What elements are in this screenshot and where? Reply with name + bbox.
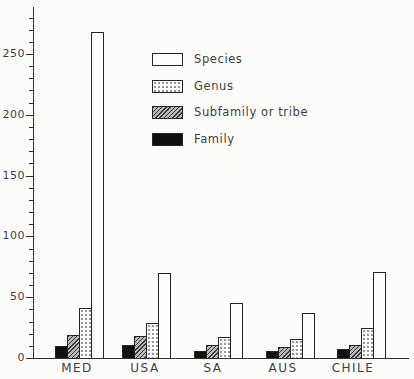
y-tick-240 [29,66,33,67]
legend-label-genus: Genus [194,79,234,94]
y-tick-40 [29,309,33,310]
x-label-chile: CHILE [321,361,385,375]
y-tick-250 [26,54,33,55]
y-axis [33,7,34,359]
y-tick-100 [26,236,33,237]
bar-med-species [91,32,104,358]
y-tick-190 [29,127,33,128]
y-tick-220 [29,90,33,91]
y-tick-110 [29,224,33,225]
x-label-sa: SA [181,361,245,375]
legend-swatch-family [152,133,183,146]
y-tick-270 [29,30,33,31]
y-tick-90 [29,249,33,250]
y-tick-label-150: 150 [0,169,25,183]
y-tick-200 [26,115,33,116]
y-tick-20 [29,334,33,335]
legend-swatch-species [152,53,183,66]
x-axis [33,358,409,359]
y-tick-60 [29,285,33,286]
y-tick-210 [29,103,33,104]
y-tick-130 [29,200,33,201]
x-label-med: MED [45,361,109,375]
legend-swatch-genus [152,80,183,93]
y-tick-label-50: 50 [0,290,25,304]
y-tick-label-250: 250 [0,47,25,61]
y-tick-260 [29,42,33,43]
y-tick-50 [26,297,33,298]
bar-chart: 050100150200250 MEDUSASAAUSCHILE Species… [0,0,414,379]
y-tick-10 [29,346,33,347]
y-tick-80 [29,261,33,262]
y-tick-30 [29,322,33,323]
bar-sa-species [230,303,243,358]
y-tick-label-100: 100 [0,229,25,243]
legend-label-species: Species [194,52,242,67]
y-tick-180 [29,139,33,140]
y-tick-70 [29,273,33,274]
y-tick-150 [26,176,33,177]
x-label-aus: AUS [251,361,315,375]
y-tick-label-0: 0 [0,351,25,365]
y-tick-170 [29,151,33,152]
bar-chile-species [373,272,386,358]
y-tick-140 [29,188,33,189]
y-tick-160 [29,163,33,164]
x-label-usa: USA [113,361,177,375]
y-tick-120 [29,212,33,213]
y-tick-label-200: 200 [0,108,25,122]
bar-aus-species [302,313,315,358]
y-tick-230 [29,78,33,79]
y-tick-0 [26,358,33,359]
legend-label-subfamily: Subfamily or tribe [194,105,308,120]
legend-label-family: Family [194,132,235,147]
y-tick-280 [29,18,33,19]
bar-usa-species [158,273,171,358]
legend-swatch-subfamily [152,106,183,119]
